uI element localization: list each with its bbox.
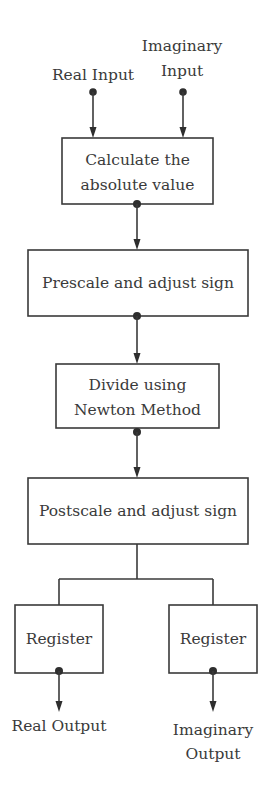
register-real-label: Register <box>26 630 93 648</box>
block-prescale-label: Prescale and adjust sign <box>42 274 234 292</box>
register-imaginary: Register <box>169 605 257 673</box>
connector-2-3 <box>133 312 141 364</box>
register-real: Register <box>15 605 103 673</box>
block-prescale: Prescale and adjust sign <box>28 250 248 316</box>
connector-1-2 <box>133 200 141 250</box>
block-postscale: Postscale and adjust sign <box>28 478 248 544</box>
block-postscale-label: Postscale and adjust sign <box>39 502 237 520</box>
real-input-connector <box>89 88 97 138</box>
block-newton-divide-line2: Newton Method <box>74 401 201 419</box>
block-absolute-value: Calculate the absolute value <box>62 138 213 204</box>
arrow-down-icon <box>210 701 217 712</box>
arrow-down-icon <box>134 239 141 250</box>
real-output-label: Real Output <box>11 717 107 735</box>
connector-3-4 <box>133 428 141 478</box>
imaginary-output-label-line2: Output <box>185 745 241 763</box>
real-input-label: Real Input <box>52 66 135 84</box>
arrow-down-icon <box>134 353 141 364</box>
arrow-down-icon <box>134 467 141 478</box>
block-newton-divide-line1: Divide using <box>89 376 187 394</box>
register-imaginary-label: Register <box>180 630 247 648</box>
flowchart-diagram: Real Input Imaginary Input Calculate the… <box>0 0 270 792</box>
arrow-down-icon <box>56 701 63 712</box>
arrow-down-icon <box>180 127 187 138</box>
imaginary-input-label-line2: Input <box>161 62 204 80</box>
split-connector <box>59 544 213 605</box>
imaginary-output-label-line1: Imaginary <box>173 721 254 739</box>
block-newton-divide: Divide using Newton Method <box>56 364 219 428</box>
imaginary-input-connector <box>179 88 187 138</box>
arrow-down-icon <box>90 127 97 138</box>
imaginary-input-label-line1: Imaginary <box>142 37 223 55</box>
block-absolute-value-line2: absolute value <box>81 176 195 194</box>
block-absolute-value-line1: Calculate the <box>85 151 190 169</box>
real-output-connector <box>55 667 63 712</box>
imaginary-output-connector <box>209 667 217 712</box>
